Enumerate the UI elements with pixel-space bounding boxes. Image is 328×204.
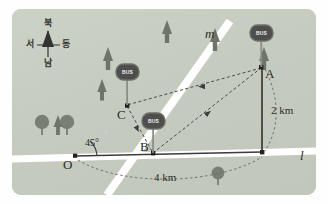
line-label-l: l (300, 149, 304, 162)
point-label-O: O (63, 158, 72, 171)
compass-arrow-icon (37, 30, 60, 57)
map-panel: BUS BUS BUS 북 서 동 남 A O B C m l 45° 2 km… (12, 9, 316, 195)
compass-label-east: 동 (62, 40, 70, 49)
angle-label-45: 45° (85, 138, 99, 148)
dimension-label-2km: 2 km (271, 105, 293, 116)
point-label-A: A (265, 67, 274, 80)
compass-label-south: 남 (44, 59, 52, 68)
compass-label-west: 서 (26, 40, 34, 49)
compass-label-north: 북 (44, 19, 52, 28)
point-label-C: C (117, 108, 126, 121)
compass-layer (12, 9, 316, 195)
dimension-label-4km: 4 km (154, 172, 176, 183)
line-label-m: m (205, 27, 214, 40)
figure-canvas: BUS BUS BUS 북 서 동 남 A O B C m l 45° 2 km… (0, 0, 328, 204)
point-label-B: B (140, 140, 149, 153)
